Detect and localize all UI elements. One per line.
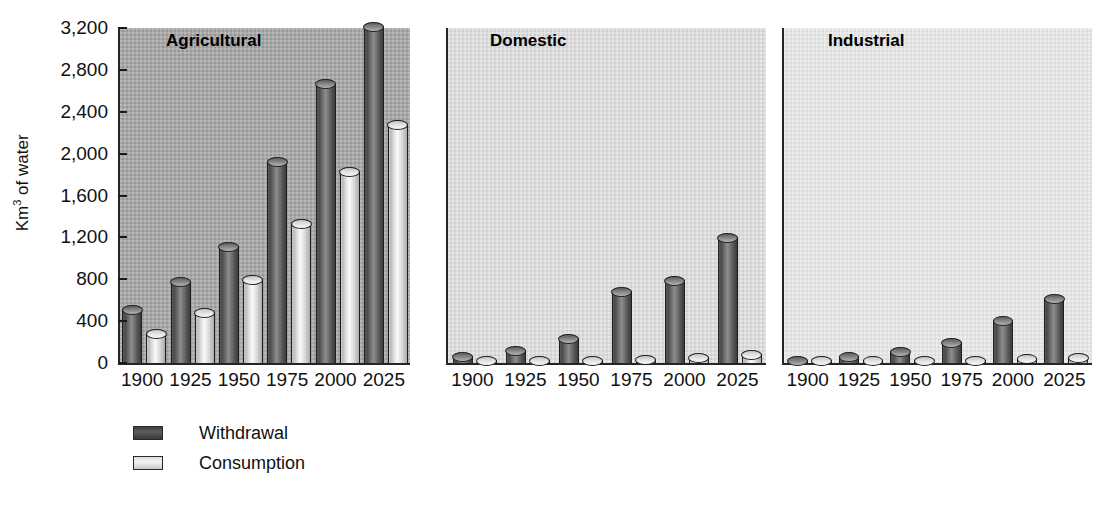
bar-consumption: [689, 357, 709, 363]
bar-top-ellipse: [717, 233, 738, 243]
x-axis-tick-label: 2000: [987, 369, 1039, 391]
chart-legend: Withdrawal Consumption: [133, 418, 305, 478]
x-axis-tick-label: 2025: [712, 369, 764, 391]
bar-top-ellipse: [339, 167, 360, 177]
y-axis-tick-label: 400: [76, 311, 108, 330]
legend-item-consumption: Consumption: [133, 448, 305, 478]
bar-consumption: [863, 360, 883, 363]
bar-top-ellipse: [218, 242, 239, 252]
y-axis-tick-labels: 04008001,2001,6002,0002,4002,8003,200: [0, 0, 108, 400]
bar-top-ellipse: [146, 329, 167, 339]
bar-consumption: [340, 171, 360, 363]
x-axis-tick-label: 1975: [936, 369, 988, 391]
bar-top-ellipse: [941, 338, 962, 348]
bar-consumption: [243, 279, 263, 363]
bar-top-ellipse: [267, 157, 288, 167]
y-axis-tick-label: 3,200: [60, 18, 108, 37]
bar-top-ellipse: [505, 346, 526, 356]
bar-withdrawal: [559, 338, 579, 363]
legend-label-withdrawal: Withdrawal: [199, 423, 288, 444]
x-axis-tick-label: 1925: [833, 369, 885, 391]
bar-withdrawal: [122, 309, 142, 363]
bar-consumption: [146, 333, 166, 363]
bar-withdrawal: [364, 26, 384, 363]
y-axis-tick-mark: [118, 320, 127, 322]
y-axis-tick-label: 0: [97, 353, 108, 372]
x-axis-tick-label: 1975: [261, 369, 313, 391]
bar-consumption: [1017, 358, 1037, 363]
x-axis-tick-label: 1900: [116, 369, 168, 391]
bar-consumption: [914, 360, 934, 363]
y-axis-tick-mark: [118, 236, 127, 238]
y-axis-tick-label: 2,000: [60, 144, 108, 163]
bar-top-ellipse: [611, 287, 632, 297]
bar-consumption: [388, 124, 408, 363]
bar-top-ellipse: [315, 79, 336, 89]
x-axis-tick-label: 1975: [606, 369, 658, 391]
bar-consumption: [291, 223, 311, 363]
bar-withdrawal: [219, 246, 239, 363]
bar-top-ellipse: [863, 356, 884, 366]
bar-top-ellipse: [387, 120, 408, 130]
bar-withdrawal: [665, 280, 685, 363]
x-axis-tick-label: 1900: [447, 369, 499, 391]
bar-consumption: [742, 354, 762, 363]
bar-withdrawal: [171, 281, 191, 363]
y-axis-tick-label: 2,400: [60, 102, 108, 121]
x-axis-tick-label: 2000: [659, 369, 711, 391]
x-axis-tick-label: 1925: [500, 369, 552, 391]
bar-top-ellipse: [1017, 354, 1038, 364]
bar-withdrawal: [1044, 298, 1064, 363]
legend-swatch-consumption-icon: [133, 456, 163, 470]
x-axis-tick-label: 2000: [310, 369, 362, 391]
bar-top-ellipse: [558, 334, 579, 344]
bar-top-ellipse: [194, 308, 215, 318]
y-axis-tick-mark: [118, 69, 127, 71]
bar-consumption: [195, 312, 215, 363]
bar-withdrawal: [839, 356, 859, 363]
panel-title-industrial: Industrial: [828, 31, 905, 51]
bar-withdrawal: [453, 356, 473, 363]
panel-title-domestic: Domestic: [490, 31, 567, 51]
bar-top-ellipse: [787, 356, 808, 366]
y-axis-tick-mark: [118, 195, 127, 197]
water-use-chart-figure: Km3 of water 04008001,2001,6002,0002,400…: [0, 0, 1110, 515]
legend-item-withdrawal: Withdrawal: [133, 418, 305, 448]
bar-withdrawal: [788, 360, 808, 363]
bar-top-ellipse: [1044, 294, 1065, 304]
bar-withdrawal: [612, 291, 632, 363]
y-axis-tick-label: 1,200: [60, 227, 108, 246]
x-axis-tick-label: 2025: [358, 369, 410, 391]
bar-top-ellipse: [664, 276, 685, 286]
bar-top-ellipse: [741, 350, 762, 360]
bar-top-ellipse: [242, 275, 263, 285]
bar-top-ellipse: [839, 352, 860, 362]
bar-top-ellipse: [1068, 353, 1089, 363]
bar-top-ellipse: [476, 356, 497, 366]
x-axis-tick-label: 1950: [553, 369, 605, 391]
y-axis-tick-mark: [118, 27, 127, 29]
bar-consumption: [583, 360, 603, 363]
bar-top-ellipse: [122, 305, 143, 315]
panel-agricultural: Agricultural: [118, 28, 410, 365]
bar-withdrawal: [942, 342, 962, 363]
bar-top-ellipse: [635, 355, 656, 365]
y-axis-tick-mark: [118, 153, 127, 155]
bar-consumption: [1068, 357, 1088, 363]
bar-consumption: [530, 360, 550, 363]
legend-swatch-withdrawal-icon: [133, 426, 163, 440]
x-axis-tick-label: 2025: [1038, 369, 1090, 391]
x-axis-tick-label: 1950: [884, 369, 936, 391]
panel-domestic: Domestic: [446, 28, 766, 365]
legend-label-consumption: Consumption: [199, 453, 305, 474]
panel-industrial: Industrial: [782, 28, 1092, 365]
bar-withdrawal: [890, 351, 910, 363]
x-axis-tick-label: 1950: [213, 369, 265, 391]
y-axis-tick-label: 2,800: [60, 60, 108, 79]
y-axis-tick-label: 1,600: [60, 186, 108, 205]
y-axis-tick-mark: [118, 278, 127, 280]
bar-withdrawal: [316, 83, 336, 363]
y-axis-tick-label: 800: [76, 269, 108, 288]
bar-top-ellipse: [363, 22, 384, 32]
bar-top-ellipse: [811, 356, 832, 366]
